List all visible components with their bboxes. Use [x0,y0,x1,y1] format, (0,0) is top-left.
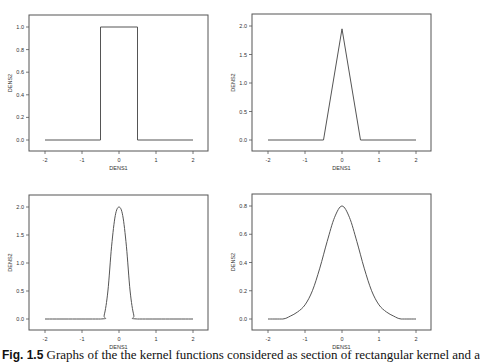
y-tick-label: 0.0 [239,137,247,143]
y-tick-label: 0.0 [239,316,247,322]
y-axis-label: DENS2 [7,74,13,92]
kernel-curve [45,27,193,140]
y-tick-label: 0.8 [239,203,247,209]
y-tick-label: 2.0 [239,23,247,29]
y-axis-label: DENS2 [7,253,13,271]
y-tick-label: 0.5 [16,288,24,294]
x-tick-label: 1 [154,157,157,163]
y-tick-label: 2.0 [16,204,24,210]
y-tick-label: 0.0 [16,137,24,143]
y-tick-label: 0.4 [239,260,247,266]
y-tick-label: 0.5 [239,109,247,115]
x-tick-label: 0 [117,157,120,163]
x-tick-label: 2 [414,336,417,342]
y-axis-label: DENS2 [230,253,236,271]
y-tick-label: 1.0 [16,260,24,266]
x-tick-label: -2 [266,336,271,342]
caption-text: Graphs of the the kernel functions consi… [47,347,480,362]
kernel-panel-4: -2-10120.00.20.40.60.8DENS1DENS2 [230,194,431,350]
x-axis-label: DENS1 [332,165,350,171]
y-tick-label: 0.2 [16,114,24,120]
y-tick-label: 0.4 [16,92,24,98]
plot-frame [29,195,208,330]
x-tick-label: -2 [43,336,48,342]
kernel-curve [268,206,416,319]
y-axis-label: DENS2 [230,73,236,91]
x-tick-label: 1 [377,336,380,342]
y-tick-label: 1.5 [16,232,24,238]
x-tick-label: 0 [340,336,343,342]
plot-frame [29,15,208,151]
x-tick-label: -1 [80,157,85,163]
y-tick-label: 0.0 [16,316,24,322]
x-tick-label: 1 [154,336,157,342]
caption-label: Fig. 1.5 [2,348,43,362]
y-tick-label: 1.0 [239,80,247,86]
plot-frame [252,194,431,330]
kernel-panel-2: -2-10120.00.51.01.52.0DENS1DENS2 [230,14,431,171]
x-tick-label: 2 [191,157,194,163]
y-tick-label: 1.5 [239,52,247,58]
y-tick-label: 0.2 [239,288,247,294]
y-tick-label: 1.0 [16,24,24,30]
x-tick-label: 2 [414,157,417,163]
x-tick-label: -2 [43,157,48,163]
x-tick-label: 2 [191,336,194,342]
x-tick-label: -1 [303,157,308,163]
figure-caption: Fig. 1.5 Graphs of the the kernel functi… [2,347,462,363]
y-tick-label: 0.6 [239,231,247,237]
x-tick-label: -2 [266,157,271,163]
x-tick-label: 1 [377,157,380,163]
x-tick-label: 0 [117,336,120,342]
x-tick-label: -1 [303,336,308,342]
x-axis-label: DENS1 [109,165,127,171]
kernel-curve [45,207,193,319]
y-tick-label: 0.6 [16,69,24,75]
x-tick-label: 0 [340,157,343,163]
x-tick-label: -1 [80,336,85,342]
y-tick-label: 0.8 [16,47,24,53]
kernel-curve [268,29,416,140]
kernel-panel-3: -2-10120.00.51.01.52.0DENS1DENS2 [7,195,208,350]
kernel-panel-1: -2-10120.00.20.40.60.81.0DENS1DENS2 [7,15,208,171]
